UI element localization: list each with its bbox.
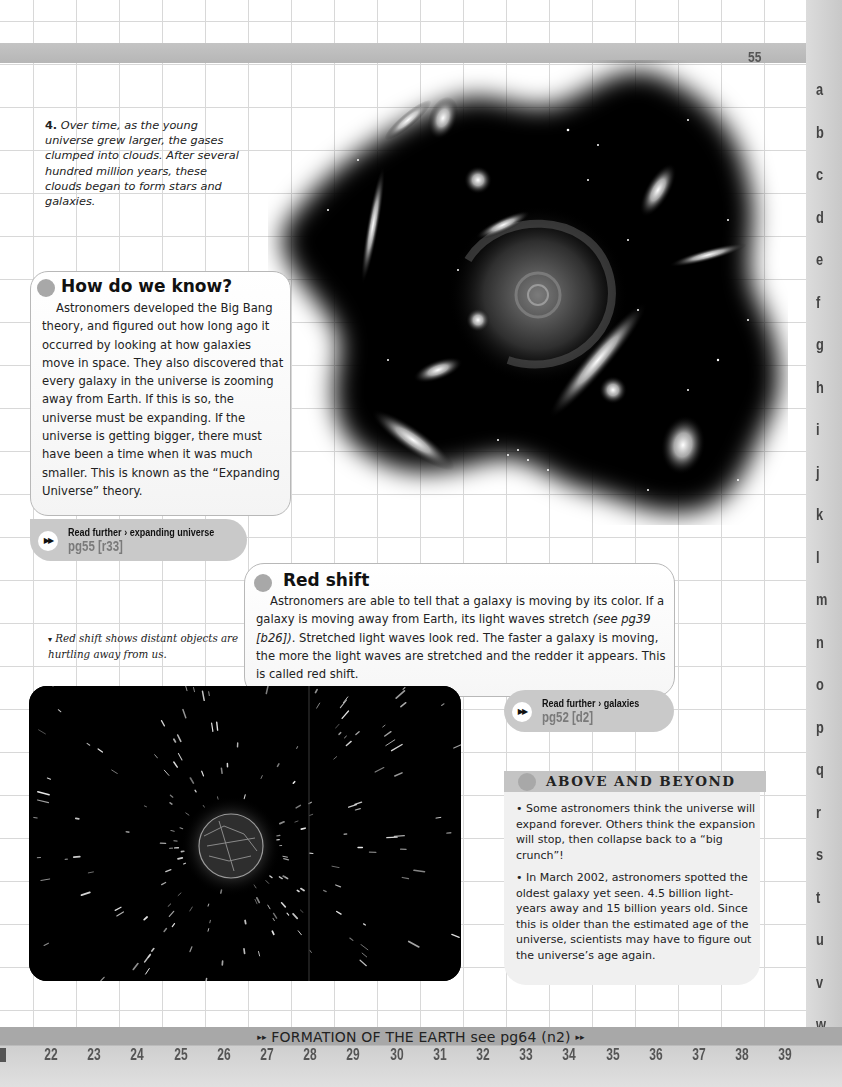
- row-letter-v: v: [816, 974, 832, 992]
- row-letter-h: h: [816, 379, 832, 397]
- above-and-beyond-box: ABOVE AND BEYOND • Some astronomers thin…: [504, 771, 760, 985]
- caption-text: Red shift shows distant objects are hurt…: [48, 632, 238, 660]
- row-letter-d: d: [816, 209, 832, 227]
- row-letter-b: b: [816, 124, 832, 142]
- caption-text: Over time, as the young universe grew la…: [45, 119, 239, 208]
- read-further-ref[interactable]: pg52 [d2]: [542, 709, 593, 725]
- column-number-33: 33: [519, 1046, 532, 1064]
- read-further-ref[interactable]: pg55 [r33]: [68, 538, 123, 554]
- row-letter-p: p: [816, 719, 832, 737]
- row-letter-u: u: [816, 931, 832, 949]
- row-index-strip: [806, 0, 842, 1087]
- column-number-26: 26: [217, 1046, 230, 1064]
- red-shift-starfield-photo: [29, 686, 461, 981]
- read-further-galaxies[interactable]: ▶▶ Read further › galaxies pg52 [d2]: [504, 690, 674, 732]
- red-shift-title: Red shift: [283, 570, 369, 590]
- row-letter-q: q: [816, 761, 832, 779]
- section-bullet-icon: [37, 279, 55, 297]
- double-arrow-icon: ▶▶: [512, 702, 532, 722]
- column-number-29: 29: [347, 1046, 360, 1064]
- section-bullet-icon: [254, 574, 272, 592]
- column-number-22: 22: [44, 1046, 57, 1064]
- column-number-36: 36: [649, 1046, 662, 1064]
- galaxy-cluster-illustration: [268, 60, 788, 525]
- column-number-34: 34: [563, 1046, 576, 1064]
- row-letter-t: t: [816, 889, 832, 907]
- how-do-we-know-box: How do we know? Astronomers developed th…: [30, 271, 291, 516]
- row-letter-m: m: [816, 591, 832, 609]
- column-number-39: 39: [779, 1046, 792, 1064]
- column-number-32: 32: [476, 1046, 489, 1064]
- column-number-31: 31: [433, 1046, 446, 1064]
- footer-left-tick: [0, 1048, 6, 1062]
- double-arrow-icon: ▶▶: [38, 531, 58, 551]
- red-shift-box: Red shift Astronomers are able to tell t…: [244, 563, 675, 697]
- row-letter-a: a: [816, 81, 832, 99]
- read-further-label: Read further › galaxies: [542, 697, 639, 709]
- above-and-beyond-title: ABOVE AND BEYOND: [546, 773, 736, 789]
- row-letter-l: l: [816, 549, 832, 567]
- column-number-28: 28: [303, 1046, 316, 1064]
- column-number-38: 38: [735, 1046, 748, 1064]
- row-letter-o: o: [816, 676, 832, 694]
- caption-step-4: 4. Over time, as the young universe grew…: [45, 118, 245, 209]
- row-letter-i: i: [816, 421, 832, 439]
- row-letter-s: s: [816, 846, 832, 864]
- caption-number: 4.: [45, 119, 57, 132]
- column-number-24: 24: [131, 1046, 144, 1064]
- column-number-23: 23: [87, 1046, 100, 1064]
- red-shift-photo-caption: ▾ Red shift shows distant objects are hu…: [48, 631, 268, 662]
- row-letter-j: j: [816, 464, 832, 482]
- starfield-streaks: [29, 686, 461, 981]
- row-letter-r: r: [816, 804, 832, 822]
- read-further-expanding-universe[interactable]: ▶▶ Read further › expanding universe pg5…: [30, 519, 247, 561]
- footer-link-text[interactable]: FORMATION OF THE EARTH see pg64 (n2): [271, 1029, 570, 1045]
- above-and-beyond-header: ABOVE AND BEYOND: [504, 771, 766, 792]
- caption-pointer-icon: ▾: [48, 635, 52, 644]
- read-further-label: Read further › expanding universe: [68, 526, 214, 538]
- row-letter-c: c: [816, 166, 832, 184]
- row-letter-f: f: [816, 294, 832, 312]
- red-shift-body: Astronomers are able to tell that a gala…: [256, 592, 668, 683]
- column-number-37: 37: [692, 1046, 705, 1064]
- footer-cross-reference-link[interactable]: ▸▸ FORMATION OF THE EARTH see pg64 (n2) …: [0, 1029, 842, 1045]
- section-bullet-icon: [518, 773, 536, 791]
- fact-item: • Some astronomers think the universe wi…: [516, 801, 756, 863]
- column-number-30: 30: [390, 1046, 403, 1064]
- above-and-beyond-body: • Some astronomers think the universe wi…: [516, 801, 756, 970]
- column-number-35: 35: [606, 1046, 619, 1064]
- column-number-27: 27: [260, 1046, 273, 1064]
- fact-item: • In March 2002, astronomers spotted the…: [516, 870, 756, 963]
- double-arrow-icon: ▸▸: [575, 1032, 584, 1042]
- row-letter-e: e: [816, 251, 832, 269]
- column-number-25: 25: [174, 1046, 187, 1064]
- row-letter-g: g: [816, 336, 832, 354]
- how-do-we-know-body: Astronomers developed the Big Bang theor…: [42, 299, 287, 500]
- row-letter-k: k: [816, 506, 832, 524]
- row-letter-n: n: [816, 634, 832, 652]
- how-do-we-know-title: How do we know?: [61, 276, 232, 296]
- double-arrow-icon: ▸▸: [257, 1032, 266, 1042]
